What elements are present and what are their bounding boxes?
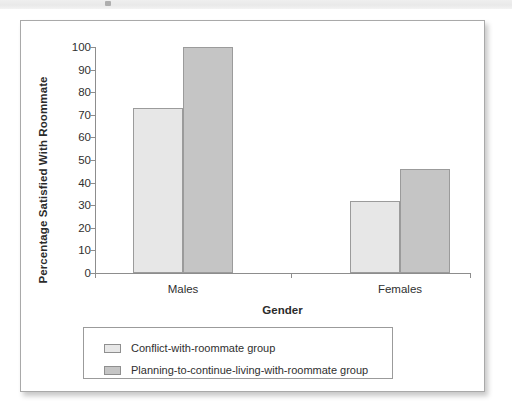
page-header-strip — [0, 0, 512, 9]
legend-item-1: Conflict-with-roommate group — [104, 341, 275, 355]
y-axis-tick-mark — [90, 137, 95, 138]
x-axis-line — [95, 273, 470, 274]
y-axis-tick-mark — [90, 183, 95, 184]
y-axis-tick-label: 70 — [63, 110, 91, 122]
figure-panel: Percentage Satisfied With Roommate 10090… — [20, 20, 485, 392]
legend-label: Conflict-with-roommate group — [131, 342, 275, 354]
y-axis-tick-mark — [90, 205, 95, 206]
legend-item-2: Planning-to-continue-living-with-roommat… — [104, 363, 368, 377]
bar-females-series1 — [350, 201, 400, 273]
x-axis-tick-mark — [95, 273, 96, 278]
bars-layer — [95, 47, 470, 273]
legend-swatch-icon — [104, 344, 121, 353]
y-axis-tick-mark — [90, 92, 95, 93]
y-axis-tick-mark — [90, 160, 95, 161]
y-axis-tick-label: 10 — [63, 245, 91, 257]
bar-males-series1 — [133, 108, 183, 273]
y-axis-tick-label: 40 — [63, 178, 91, 190]
header-marker-icon — [105, 1, 111, 6]
chart-plot-area: Percentage Satisfied With Roommate 10090… — [21, 21, 484, 391]
y-axis-tick-labels: 1009080706050403020100 — [55, 47, 91, 273]
y-axis-tick-label: 60 — [63, 132, 91, 144]
x-axis-category-females: Females — [340, 283, 460, 295]
chart-legend: Conflict-with-roommate groupPlanning-to-… — [83, 327, 393, 379]
y-axis-tick-label: 20 — [63, 223, 91, 235]
x-axis-title: Gender — [95, 304, 470, 316]
y-axis-title: Percentage Satisfied With Roommate — [37, 67, 51, 293]
y-axis-tick-label: 90 — [63, 65, 91, 77]
y-axis-tick-mark — [90, 70, 95, 71]
y-axis-tick-label: 50 — [63, 155, 91, 167]
x-axis-tick-mark — [470, 273, 471, 278]
x-axis-category-males: Males — [123, 283, 243, 295]
legend-swatch-icon — [104, 366, 121, 375]
x-axis-tick-mark — [291, 273, 292, 278]
y-axis-tick-mark — [90, 115, 95, 116]
y-axis-tick-mark — [90, 250, 95, 251]
y-axis-tick-label: 0 — [63, 268, 91, 280]
bar-males-series2 — [183, 47, 233, 273]
y-axis-tick-mark — [90, 47, 95, 48]
y-axis-tick-label: 100 — [63, 42, 91, 54]
y-axis-tick-label: 80 — [63, 87, 91, 99]
bar-females-series2 — [400, 169, 450, 273]
legend-label: Planning-to-continue-living-with-roommat… — [131, 364, 368, 376]
y-axis-tick-mark — [90, 228, 95, 229]
y-axis-tick-label: 30 — [63, 200, 91, 212]
